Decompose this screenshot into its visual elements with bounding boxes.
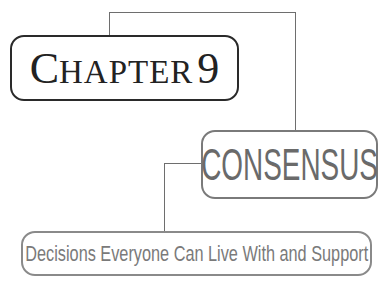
chapter-subtitle: Decisions Everyone Can Live With and Sup… (25, 241, 368, 267)
chapter-number: 9 (197, 44, 219, 93)
connector-mid-horizontal (164, 163, 201, 164)
chapter-word: HAPTER (59, 54, 193, 90)
chapter-heading-box: CHAPTER 9 (10, 35, 239, 101)
connector-mid-vertical (164, 163, 165, 231)
connector-right-vertical (295, 12, 296, 130)
chapter-heading: CHAPTER 9 (30, 43, 220, 94)
subtitle-box: Decisions Everyone Can Live With and Sup… (21, 231, 372, 276)
chapter-title: CONSENSUS (201, 139, 378, 191)
title-box: CONSENSUS (201, 130, 378, 199)
connector-top-horizontal (109, 12, 296, 13)
connector-left-vertical (109, 12, 110, 35)
chapter-first-letter: C (30, 44, 59, 93)
